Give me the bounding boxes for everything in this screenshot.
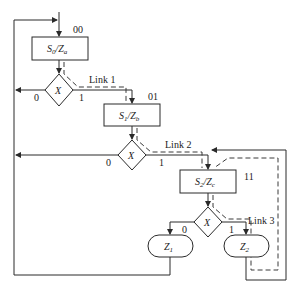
state-s2: S2/Zc <box>180 170 236 193</box>
state-code-s1: 01 <box>148 91 158 102</box>
link2-label: Link 2 <box>165 139 191 150</box>
d1-true-line <box>146 155 208 169</box>
state-s1: S1/Zb <box>104 104 160 126</box>
svg-text:X: X <box>127 150 135 161</box>
conditional-output-z1: Z1 <box>148 235 193 257</box>
conditional-output-z2: Z2 <box>224 235 269 257</box>
asm-chart: S0/Za 00 S1/Zb 01 S2/Zc 11 X 0 1 X 0 1 X… <box>0 0 298 288</box>
link3-label: Link 3 <box>248 215 274 226</box>
svg-text:X: X <box>203 217 211 228</box>
link1-label: Link 1 <box>89 74 115 85</box>
d1-true-label: 1 <box>159 157 164 168</box>
d2-true-label: 1 <box>229 224 234 235</box>
state-s0: S0/Za <box>32 37 88 60</box>
state-code-s0: 00 <box>73 24 83 35</box>
state-code-s2: 11 <box>244 171 254 182</box>
d0-true-label: 1 <box>79 92 84 103</box>
d2-true-line <box>222 222 246 234</box>
d2-false-label: 0 <box>182 224 187 235</box>
d0-false-label: 0 <box>34 92 39 103</box>
d1-false-label: 0 <box>106 157 111 168</box>
z1-return-line <box>14 248 170 275</box>
svg-text:X: X <box>54 85 62 96</box>
